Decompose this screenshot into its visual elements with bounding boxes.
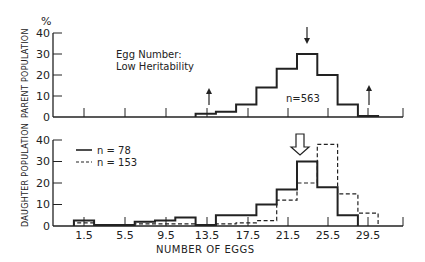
svg-text:10: 10 bbox=[36, 198, 50, 211]
top-sample-size: n=563 bbox=[286, 93, 320, 104]
egg-number-histogram-figure: % 40 30 20 10 0 PARENT POPULAT bbox=[0, 0, 425, 262]
low-threshold-arrow-icon bbox=[206, 88, 212, 105]
svg-text:20: 20 bbox=[36, 177, 50, 190]
svg-text:13.5: 13.5 bbox=[195, 229, 220, 242]
svg-text:21.5: 21.5 bbox=[276, 229, 301, 242]
top-panel: % 40 30 20 10 0 PARENT POPULAT bbox=[21, 15, 403, 124]
bottom-y-tick-labels: 40 30 20 10 0 bbox=[36, 134, 50, 233]
svg-text:30: 30 bbox=[36, 155, 50, 168]
svg-text:5.5: 5.5 bbox=[116, 229, 134, 242]
top-y-ticks bbox=[53, 33, 62, 96]
top-x-ticks bbox=[84, 108, 403, 117]
parent-histogram bbox=[196, 54, 379, 117]
svg-text:20: 20 bbox=[36, 69, 50, 82]
svg-text:0: 0 bbox=[43, 220, 50, 233]
svg-text:29.5: 29.5 bbox=[356, 229, 381, 242]
daughter-histogram-n78 bbox=[74, 162, 358, 227]
svg-text:17.5: 17.5 bbox=[236, 229, 261, 242]
chart-title: Egg Number: bbox=[116, 49, 182, 60]
svg-text:30: 30 bbox=[36, 48, 50, 61]
legend-solid-label: n = 78 bbox=[97, 145, 131, 156]
svg-text:40: 40 bbox=[36, 27, 50, 40]
x-axis-label: NUMBER OF EGGS bbox=[156, 244, 255, 255]
bottom-y-ticks bbox=[53, 140, 62, 205]
x-tick-labels: 1.5 5.5 9.5 13.5 17.5 21.5 25.5 29.5 bbox=[75, 229, 380, 242]
svg-text:0: 0 bbox=[43, 111, 50, 124]
daughter-mean-hollow-arrow-icon bbox=[291, 134, 309, 155]
legend: n = 78 n = 153 bbox=[76, 145, 137, 168]
legend-dashed-label: n = 153 bbox=[97, 157, 137, 168]
bottom-y-axis-label: DAUGHTER POPULATION bbox=[21, 123, 30, 227]
parent-mean-arrow-icon bbox=[304, 27, 310, 44]
top-y-axis-label: PARENT POPULATION bbox=[21, 28, 30, 118]
svg-text:25.5: 25.5 bbox=[316, 229, 341, 242]
chart-subtitle: Low Heritability bbox=[116, 61, 194, 72]
svg-text:40: 40 bbox=[36, 134, 50, 147]
top-y-tick-labels: 40 30 20 10 0 bbox=[36, 27, 50, 124]
svg-text:9.5: 9.5 bbox=[157, 229, 175, 242]
svg-text:1.5: 1.5 bbox=[75, 229, 93, 242]
svg-text:10: 10 bbox=[36, 90, 50, 103]
high-threshold-arrow-icon bbox=[366, 85, 372, 105]
bottom-panel: 40 30 20 10 0 1.5 5.5 9.5 13.5 17.5 21.5… bbox=[21, 123, 403, 255]
